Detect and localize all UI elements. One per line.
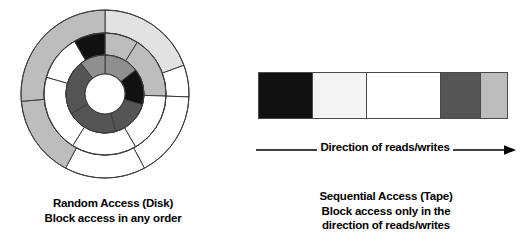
tape-caption-line-1: Sequential Access (Tape) [260,189,512,204]
disk-ring-diagram [14,6,196,188]
direction-arrow-label: Direction of reads/writes [254,141,516,153]
sequential-access-panel: Direction of reads/writes Sequential Acc… [250,0,525,248]
tape-caption: Sequential Access (Tape) Block access on… [260,189,512,233]
tape-segment-5 [480,73,507,118]
tape-caption-line-3: direction of reads/writes [260,218,512,233]
tape-segment-2 [312,73,365,118]
tape-segment-1 [259,73,312,118]
disk-caption-line-2: Block access in any order [0,211,226,226]
disk-hub [85,74,125,114]
disk-caption-line-1: Random Access (Disk) [0,196,226,211]
storage-access-comparison-figure: Random Access (Disk) Block access in any… [0,0,525,248]
disk-caption: Random Access (Disk) Block access in any… [0,196,226,225]
tape-caption-line-2: Block access only in the [260,204,512,219]
direction-arrow-text: Direction of reads/writes [317,141,452,153]
random-access-panel: Random Access (Disk) Block access in any… [0,0,250,248]
tape-segment-4 [440,73,480,118]
tape-segment-3 [366,73,440,118]
tape-bar [258,72,508,119]
direction-arrow-row: Direction of reads/writes [254,139,516,161]
